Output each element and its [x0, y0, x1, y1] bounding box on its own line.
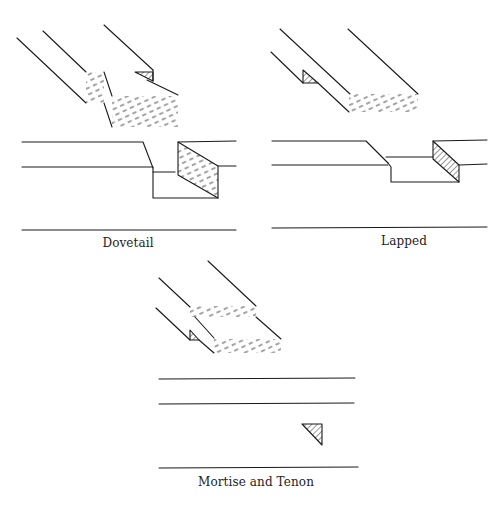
dovetail-panel [17, 25, 236, 230]
lapped-baseline [272, 227, 487, 228]
mortise-tenon-panel [156, 261, 358, 468]
lapped-recess-piece [272, 140, 487, 182]
joints-illustration [0, 0, 504, 507]
lapped-panel [271, 29, 487, 228]
caption-dovetail: Dovetail [102, 236, 153, 250]
lapped-board-piece [271, 29, 418, 112]
tenon-piece [156, 261, 281, 353]
mortise-piece [159, 378, 355, 445]
mortise-tenon-baseline [159, 467, 358, 468]
dovetail-tail-piece [17, 25, 178, 127]
joints-figure: Dovetail Lapped Mortise and Tenon [0, 0, 504, 507]
caption-lapped: Lapped [381, 234, 427, 248]
caption-mortise-and-tenon: Mortise and Tenon [198, 475, 314, 489]
dovetail-socket-piece [22, 141, 236, 198]
